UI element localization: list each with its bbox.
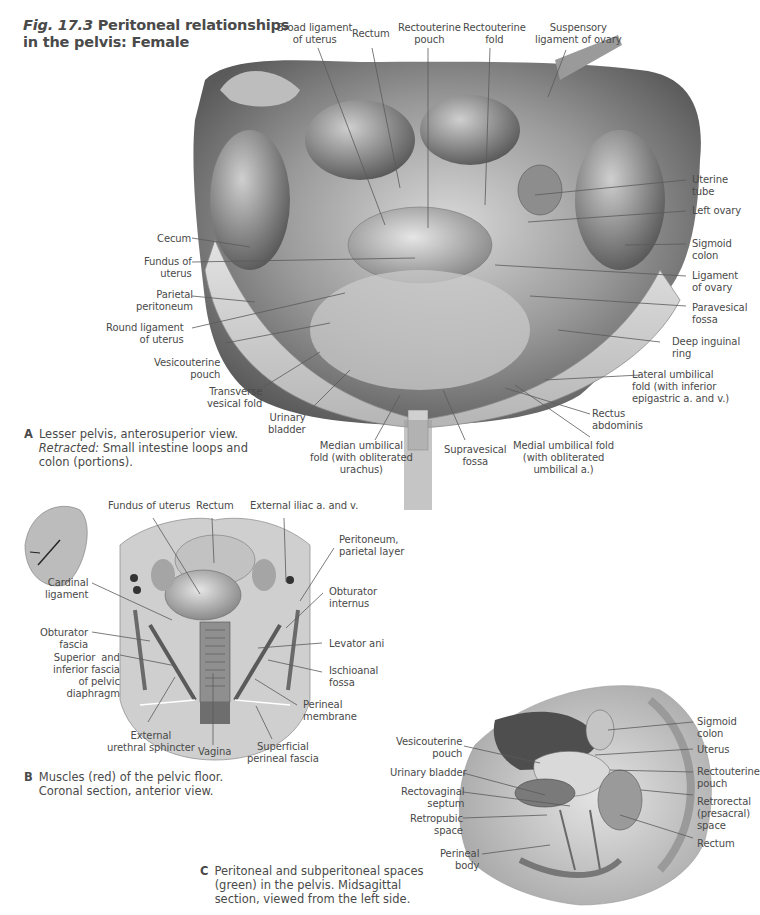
- panel-letter-c: C: [200, 864, 208, 878]
- caption-panel-a: ALesser pelvis, anterosuperior view. Ret…: [24, 427, 248, 469]
- label-round-ligament: Round ligament of uterus: [106, 322, 184, 346]
- label-rectus-abdominis: Rectus abdominis: [592, 408, 643, 432]
- label-supravesical-fossa: Supravesical fossa: [444, 444, 507, 468]
- label-rectum-a: Rectum: [352, 28, 390, 40]
- label-urinary-bladder-c: Urinary bladder: [390, 767, 467, 779]
- label-rectum-c: Rectum: [697, 838, 735, 850]
- label-urinary-bladder-a: Urinary bladder: [268, 412, 306, 436]
- label-rectum-b: Rectum: [196, 500, 234, 512]
- caption-panel-b: BMuscles (red) of the pelvic floor. Coro…: [24, 770, 223, 798]
- label-cecum: Cecum: [157, 233, 191, 245]
- panel-b-inset-illustration: [25, 506, 87, 586]
- label-deep-inguinal-ring: Deep inguinal ring: [672, 336, 740, 360]
- figure-number: Fig. 17.3: [23, 17, 93, 33]
- label-external-iliac: External iliac a. and v.: [250, 500, 358, 512]
- label-medial-umbilical-fold: Medial umbilical fold (with obliterated …: [513, 440, 614, 476]
- label-obturator-fascia: Obturator fascia: [40, 627, 88, 651]
- label-sigmoid-colon-a: Sigmoid colon: [692, 238, 732, 262]
- label-obturator-internus: Obturator internus: [329, 586, 377, 610]
- figure-title: Fig. 17.3 Peritoneal relationships in th…: [23, 17, 289, 51]
- label-uterine-tube: Uterine tube: [692, 174, 728, 198]
- figure-title-line2: in the pelvis: Female: [23, 34, 289, 51]
- panel-letter-b: B: [24, 770, 33, 784]
- label-superior-inferior-fascia: Superior and inferior fascia of pelvic d…: [53, 652, 120, 700]
- caption-panel-c: CPeritoneal and subperitoneal spaces (gr…: [200, 864, 424, 906]
- panel-letter-a: A: [24, 427, 33, 441]
- label-uterus: Uterus: [697, 744, 729, 756]
- panel-b-illustration: [120, 518, 310, 760]
- label-paravesical-fossa: Paravesical fossa: [692, 302, 747, 326]
- label-ischioanal-fossa: Ischioanal fossa: [329, 665, 378, 689]
- label-vagina: Vagina: [198, 746, 231, 758]
- label-retropubic-space: Retropubic space: [410, 813, 463, 837]
- label-rectouterine-fold: Rectouterine fold: [463, 22, 526, 46]
- label-levator-ani: Levator ani: [329, 638, 384, 650]
- label-vesicouterine-pouch-c: Vesicouterine pouch: [396, 736, 462, 760]
- label-sigmoid-colon-c: Sigmoid colon: [697, 716, 737, 740]
- panel-c-illustration: [459, 686, 711, 905]
- label-peritoneum-parietal-layer: Peritoneum, parietal layer: [339, 534, 404, 558]
- label-lateral-umbilical-fold: Lateral umbilical fold (with inferior ep…: [632, 369, 729, 405]
- label-parietal-peritoneum: Parietal peritoneum: [136, 289, 193, 313]
- label-median-umbilical-fold: Median umbilical fold (with obliterated …: [310, 440, 413, 476]
- label-vesicouterine-pouch-a: Vesicouterine pouch: [154, 357, 220, 381]
- label-rectouterine-pouch-a: Rectouterine pouch: [398, 22, 461, 46]
- label-perineal-body: Perineal body: [440, 848, 479, 872]
- label-broad-ligament: Broad ligament of uterus: [277, 22, 352, 46]
- label-cardinal-ligament: Cardinal ligament: [45, 577, 88, 601]
- label-fundus-of-uterus-b: Fundus of uterus: [108, 500, 190, 512]
- label-rectouterine-pouch-c: Rectouterine pouch: [697, 766, 760, 790]
- label-perineal-membrane: Perineal membrane: [303, 699, 357, 723]
- panel-a-illustration: [193, 35, 700, 510]
- label-retrorectal-space: Retrorectal (presacral) space: [697, 796, 751, 832]
- figure-title-line1: Peritoneal relationships: [98, 17, 290, 33]
- label-suspensory-ligament: Suspensory ligament of ovary: [535, 22, 622, 46]
- label-rectovaginal-septum: Rectovaginal septum: [401, 786, 464, 810]
- label-left-ovary: Left ovary: [692, 205, 741, 217]
- label-fundus-of-uterus-a: Fundus of uterus: [144, 256, 192, 280]
- label-external-urethral-sphincter: External urethral sphincter: [107, 730, 195, 754]
- label-ligament-of-ovary: Ligament of ovary: [692, 270, 738, 294]
- label-superficial-perineal-fascia: Superficial perineal fascia: [247, 741, 319, 765]
- label-transverse-vesical-fold: Transverse vesical fold: [207, 386, 262, 410]
